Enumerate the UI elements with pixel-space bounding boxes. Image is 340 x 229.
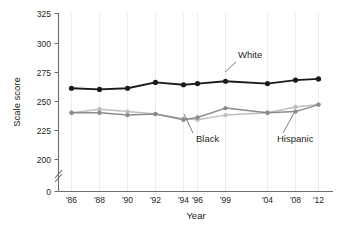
data-point <box>69 86 74 91</box>
series-label-black: Black <box>196 133 219 144</box>
data-point <box>125 113 129 117</box>
x-tick-label-99: '99 <box>220 195 231 205</box>
data-point <box>153 112 157 116</box>
data-point <box>181 82 186 87</box>
data-point <box>195 115 199 119</box>
y-tick-label-225: 225 <box>37 126 51 136</box>
data-point <box>153 80 158 85</box>
series-layer <box>69 76 321 122</box>
series-white <box>69 76 321 92</box>
x-tick-label-88: '88 <box>94 195 105 205</box>
chart-canvas: 325 300 275 250 225 200 0 Scale score '8… <box>0 0 340 229</box>
data-point <box>97 87 102 92</box>
data-point <box>181 118 185 122</box>
data-point <box>265 81 270 86</box>
data-point <box>293 77 298 82</box>
series-label-hispanic: Hispanic <box>277 133 314 144</box>
data-point <box>97 111 101 115</box>
data-point <box>265 111 269 115</box>
x-tick-label-92: '92 <box>150 195 161 205</box>
y-tick-label-0: 0 <box>46 187 51 197</box>
data-point <box>125 86 130 91</box>
data-point <box>195 81 200 86</box>
y-tick-label-200: 200 <box>37 155 51 165</box>
x-tick-label-08: '08 <box>290 195 301 205</box>
y-tick-label-325: 325 <box>37 9 51 19</box>
annotation-leader-lines <box>184 62 294 133</box>
y-axis-ticks <box>55 14 59 192</box>
data-point <box>223 79 228 84</box>
data-point <box>316 76 321 81</box>
hispanic-leader-line <box>283 113 294 133</box>
series-label-white: White <box>238 49 262 60</box>
data-point <box>316 102 320 106</box>
gridlines-vertical <box>72 13 319 191</box>
x-tick-label-96: '96 <box>192 195 203 205</box>
data-point <box>293 105 297 109</box>
y-tick-label-250: 250 <box>37 97 51 107</box>
x-tick-label-86: '86 <box>66 195 77 205</box>
y-tick-label-300: 300 <box>37 39 51 49</box>
series-line-black <box>72 105 319 120</box>
y-tick-label-275: 275 <box>37 68 51 78</box>
x-tick-label-90: '90 <box>122 195 133 205</box>
data-point <box>223 106 227 110</box>
black-leader-line <box>184 114 193 133</box>
y-axis-title: Scale score <box>11 77 22 127</box>
x-axis-title: Year <box>186 210 205 221</box>
data-point <box>223 113 227 117</box>
white-leader-line <box>225 62 236 72</box>
line-chart: 325 300 275 250 225 200 0 Scale score '8… <box>0 0 340 229</box>
x-tick-label-94: '94 <box>178 195 189 205</box>
data-point <box>69 111 73 115</box>
x-tick-label-04: '04 <box>262 195 273 205</box>
x-tick-label-12: '12 <box>313 195 324 205</box>
